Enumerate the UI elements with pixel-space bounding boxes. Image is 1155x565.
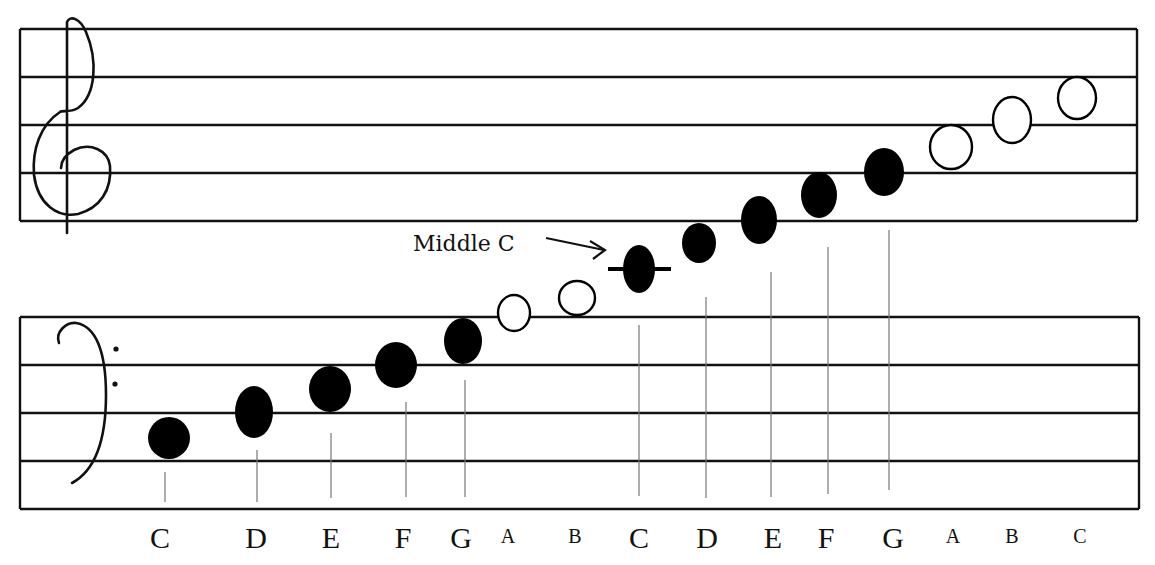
filled-notehead-icon xyxy=(741,196,777,244)
note-c-0 xyxy=(148,417,190,459)
filled-notehead-icon xyxy=(682,223,716,263)
note-label-f: F xyxy=(818,521,835,554)
filled-notehead-icon xyxy=(444,318,482,364)
note-label-f: F xyxy=(395,521,412,554)
treble-staff xyxy=(20,29,1137,221)
note-g-11 xyxy=(864,148,904,196)
note-f-3 xyxy=(375,342,417,388)
note-label-e: E xyxy=(322,521,340,554)
note-e-2 xyxy=(309,366,351,412)
middle-c-label: Middle C xyxy=(413,231,515,256)
filled-notehead-icon xyxy=(801,172,837,218)
filled-notehead-icon xyxy=(309,366,351,412)
note-label-d: D xyxy=(245,521,267,554)
open-notehead-icon xyxy=(559,281,595,315)
note-label-c: C xyxy=(150,521,170,554)
note-e-9 xyxy=(741,196,777,244)
note-c-7 xyxy=(608,245,671,293)
filled-notehead-icon xyxy=(235,386,273,438)
filled-notehead-icon xyxy=(623,245,655,293)
open-notehead-icon xyxy=(1058,77,1096,119)
filled-notehead-icon xyxy=(148,417,190,459)
note-label-c: C xyxy=(1073,525,1086,547)
note-f-10 xyxy=(801,172,837,218)
open-notehead-icon xyxy=(930,125,972,169)
note-label-c: C xyxy=(629,521,649,554)
note-label-b: B xyxy=(568,525,581,547)
middle-c-annotation: Middle C xyxy=(413,231,605,259)
note-d-8 xyxy=(682,223,716,263)
note-label-g: G xyxy=(882,521,904,554)
note-b-13 xyxy=(993,97,1031,143)
bass-clef-icon xyxy=(58,323,118,483)
note-g-4 xyxy=(444,318,482,364)
note-label-d: D xyxy=(696,521,718,554)
note-label-e: E xyxy=(764,521,782,554)
note-c-14 xyxy=(1058,77,1096,119)
bass-staff xyxy=(20,317,1139,509)
filled-notehead-icon xyxy=(864,148,904,196)
arrow-icon xyxy=(546,238,605,259)
open-notehead-icon xyxy=(498,295,530,331)
open-notehead-icon xyxy=(993,97,1031,143)
note-label-b: B xyxy=(1005,525,1018,547)
note-label-a: A xyxy=(501,525,516,547)
note-labels: CDEFGABCDEFGABC xyxy=(150,521,1087,554)
note-b-6 xyxy=(559,281,595,315)
grand-staff-diagram: Middle C CDEFGABCDEFGABC xyxy=(0,0,1155,565)
note-label-g: G xyxy=(450,521,472,554)
notes xyxy=(148,77,1096,459)
note-label-a: A xyxy=(946,525,961,547)
note-d-1 xyxy=(235,386,273,438)
note-a-5 xyxy=(498,295,530,331)
note-a-12 xyxy=(930,125,972,169)
filled-notehead-icon xyxy=(375,342,417,388)
